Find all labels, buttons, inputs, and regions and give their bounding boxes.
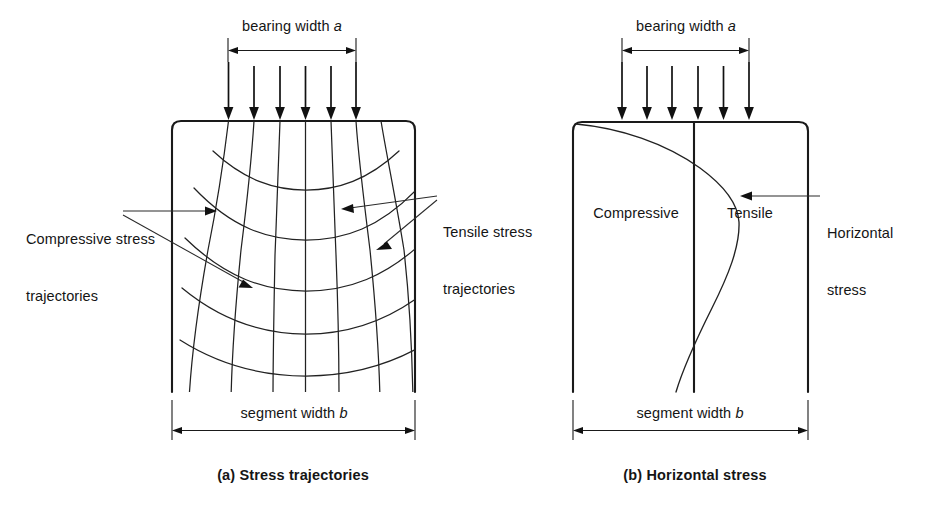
zone-label-tensile: Tensile bbox=[700, 204, 800, 223]
panel-b-load-arrows bbox=[617, 62, 754, 120]
panel-b-bearing-width-dimension bbox=[622, 38, 749, 62]
panel-a-bearing-width-label: bearing width a bbox=[212, 17, 372, 36]
panel-b-segment-width-label: segment width b bbox=[610, 404, 770, 423]
load-arrow bbox=[744, 62, 754, 120]
segment-width-symbol: b bbox=[339, 405, 347, 421]
panel-a-tensile-leader bbox=[341, 196, 437, 250]
panel-b-block-outline bbox=[573, 122, 808, 392]
load-arrow bbox=[275, 66, 285, 120]
panel-a-load-arrows bbox=[224, 62, 361, 120]
panel-b-caption: (b) Horizontal stress bbox=[590, 466, 800, 485]
bearing-width-symbol: a bbox=[334, 18, 342, 34]
segment-width-symbol: b bbox=[735, 405, 743, 421]
tensile-stress-callout-line2: trajectories bbox=[443, 280, 532, 299]
horizontal-stress-callout-line2: stress bbox=[827, 281, 893, 300]
compressive-stress-callout-line1: Compressive stress bbox=[26, 230, 155, 249]
figure-root: bearing width a segment width b Compress… bbox=[0, 0, 928, 510]
load-arrow bbox=[301, 66, 311, 120]
load-arrow bbox=[617, 62, 627, 120]
load-arrow bbox=[642, 66, 652, 120]
panel-b-graphics bbox=[573, 38, 820, 440]
panel-a-segment-width-label: segment width b bbox=[214, 404, 374, 423]
compressive-stress-callout: Compressive stress trajectories bbox=[26, 192, 155, 344]
panel-a-caption: (a) Stress trajectories bbox=[193, 466, 393, 485]
load-arrow bbox=[693, 66, 703, 120]
load-arrow bbox=[224, 62, 234, 120]
panel-b-bearing-width-label: bearing width a bbox=[606, 17, 766, 36]
load-arrow bbox=[351, 62, 361, 120]
load-arrow bbox=[326, 66, 336, 120]
panel-a-bearing-width-dimension bbox=[228, 38, 356, 62]
horizontal-stress-callout: Horizontal stress bbox=[827, 186, 893, 338]
bearing-width-symbol: a bbox=[728, 18, 736, 34]
load-arrow bbox=[719, 66, 729, 120]
tensile-stress-callout: Tensile stress trajectories bbox=[443, 185, 532, 337]
horizontal-stress-callout-line1: Horizontal bbox=[827, 224, 893, 243]
zone-label-compressive: Compressive bbox=[583, 204, 689, 223]
panel-a-compressive-trajectories bbox=[189, 121, 413, 400]
panel-b-stress-curve bbox=[576, 124, 739, 392]
tensile-stress-callout-line1: Tensile stress bbox=[443, 223, 532, 242]
load-arrow bbox=[249, 66, 259, 120]
load-arrow bbox=[667, 66, 677, 120]
panel-a-graphics bbox=[123, 38, 437, 440]
compressive-stress-callout-line2: trajectories bbox=[26, 287, 155, 306]
